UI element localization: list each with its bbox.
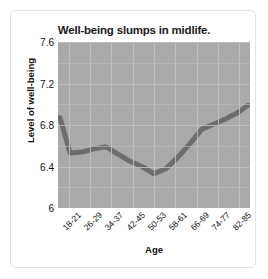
x-axis-tick-label: 18-21	[61, 210, 83, 232]
gridline-vertical	[133, 42, 134, 208]
gridline-vertical	[197, 42, 198, 208]
x-axis-tick-labels: 18-2126-2934-3742-4550-5358-6166-6974-77…	[58, 210, 250, 246]
gridline-vertical	[239, 42, 240, 208]
gridline-vertical	[218, 42, 219, 208]
x-axis-tick-label: 50-53	[146, 210, 168, 232]
chart-title: Well-being slumps in midlife.	[11, 24, 257, 36]
gridline-vertical	[69, 42, 70, 208]
x-axis-tick-label: 34-37	[103, 210, 125, 232]
chart-figure-frame: Well-being slumps in midlife. 7.67.26.86…	[10, 10, 256, 268]
plot-area	[58, 42, 250, 208]
gridline-vertical	[175, 42, 176, 208]
x-axis-tick-label: 42-45	[125, 210, 147, 232]
x-axis-title: Age	[58, 244, 250, 255]
gridline-vertical	[154, 42, 155, 208]
x-axis-tick-label: 82-85	[231, 210, 253, 232]
x-axis-tick-label: 66-69	[189, 210, 211, 232]
x-axis-tick-label: 26-29	[82, 210, 104, 232]
y-axis-tick-label: 6	[14, 203, 54, 214]
gridline-vertical	[111, 42, 112, 208]
x-axis-tick-label: 58-61	[167, 210, 189, 232]
x-axis-tick-label: 74-77	[210, 210, 232, 232]
y-axis-title: Level of well-being	[25, 46, 36, 156]
gridline-vertical	[90, 42, 91, 208]
y-axis-tick-label: 6.4	[14, 161, 54, 172]
